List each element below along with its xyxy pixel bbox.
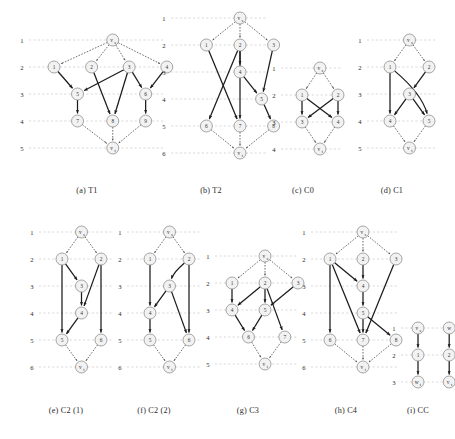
- graph-node-vs[interactable]: vs: [404, 34, 416, 46]
- graph-node-7[interactable]: 7: [234, 120, 246, 132]
- graph-node-vt[interactable]: vt: [314, 143, 326, 155]
- graph-node-2[interactable]: 2: [423, 61, 435, 73]
- node-label: v: [110, 145, 113, 151]
- graph-node-5[interactable]: 5: [357, 307, 369, 319]
- node-label: 6: [247, 334, 250, 340]
- graph-node-2[interactable]: 2: [259, 277, 271, 289]
- node-label: 2: [362, 256, 365, 262]
- edge-1-to-3: [66, 264, 78, 280]
- graph-node-6[interactable]: 6: [243, 331, 255, 343]
- graph-node-4[interactable]: 4: [332, 116, 344, 128]
- graph-node-6[interactable]: 6: [140, 88, 152, 100]
- node-label: 5: [428, 118, 431, 124]
- node-label: 6: [100, 337, 103, 343]
- graph-node-7[interactable]: 7: [279, 331, 291, 343]
- graph-node-vt[interactable]: vt: [443, 376, 455, 388]
- layer-label: 1: [302, 229, 305, 236]
- graph-node-vs[interactable]: vs: [76, 226, 88, 238]
- node-label: v: [317, 65, 320, 71]
- node-label-subscript: s: [420, 328, 422, 333]
- graph-node-7[interactable]: 7: [357, 334, 369, 346]
- graph-node-5[interactable]: 5: [72, 88, 84, 100]
- graph-node-6[interactable]: 6: [200, 120, 212, 132]
- graph-node-2[interactable]: 2: [86, 61, 98, 73]
- graph-node-3[interactable]: 3: [404, 88, 416, 100]
- layer-label: 2: [302, 256, 305, 263]
- graph-node-7[interactable]: 7: [72, 115, 84, 127]
- graph-node-2[interactable]: 2: [357, 253, 369, 265]
- graph-node-vt[interactable]: vt: [164, 361, 176, 373]
- graph-panel-cc: 123vsw12wtvt: [382, 318, 454, 388]
- graph-node-vs[interactable]: vs: [412, 322, 424, 334]
- node-label-subscript: s: [114, 40, 116, 45]
- graph-node-vt[interactable]: vt: [259, 358, 271, 370]
- graph-node-9[interactable]: 9: [140, 115, 152, 127]
- edge-6-to-vt: [252, 342, 261, 357]
- graph-node-1[interactable]: 1: [384, 61, 396, 73]
- node-label: v: [407, 37, 410, 43]
- graph-node-vt[interactable]: vt: [234, 147, 246, 159]
- node-label: 2: [100, 256, 103, 262]
- graph-node-6[interactable]: 6: [324, 334, 336, 346]
- graph-node-4[interactable]: 4: [357, 280, 369, 292]
- graph-node-5[interactable]: 5: [144, 334, 156, 346]
- edge-2-to-4: [238, 287, 260, 305]
- graph-node-2[interactable]: 2: [183, 253, 195, 265]
- graph-node-3[interactable]: 3: [123, 61, 135, 73]
- node-label: v: [167, 229, 170, 235]
- node-label: 5: [362, 310, 365, 316]
- graph-node-vt[interactable]: vt: [357, 361, 369, 373]
- graph-node-3[interactable]: 3: [296, 116, 308, 128]
- graph-node-4[interactable]: 4: [76, 307, 88, 319]
- graph-node-1[interactable]: 1: [412, 349, 424, 361]
- layer-label: 4: [118, 310, 122, 317]
- graph-node-vs[interactable]: vs: [357, 226, 369, 238]
- graph-node-5[interactable]: 5: [423, 115, 435, 127]
- graph-node-1[interactable]: 1: [56, 253, 68, 265]
- graph-node-1[interactable]: 1: [200, 39, 212, 51]
- graph-node-1[interactable]: 1: [144, 253, 156, 265]
- graph-node-4[interactable]: 4: [144, 307, 156, 319]
- graph-node-3[interactable]: 3: [390, 253, 402, 265]
- graph-node-1[interactable]: 1: [226, 277, 238, 289]
- graph-node-4[interactable]: 4: [384, 115, 396, 127]
- graph-node-8[interactable]: 8: [107, 115, 119, 127]
- graph-node-3[interactable]: 3: [268, 39, 280, 51]
- node-label: v: [79, 364, 82, 370]
- node-label: 8: [111, 118, 114, 124]
- node-label: v: [262, 361, 265, 367]
- layer-label: 2: [206, 280, 209, 287]
- graph-node-vt[interactable]: vt: [404, 142, 416, 154]
- edge-vs-to-1: [61, 43, 107, 64]
- graph-node-1[interactable]: 1: [324, 253, 336, 265]
- graph-node-vs[interactable]: vs: [259, 250, 271, 262]
- layer-label: 4: [358, 118, 362, 125]
- graph-node-1[interactable]: 1: [296, 89, 308, 101]
- graph-node-2[interactable]: 2: [443, 349, 455, 361]
- graph-node-2[interactable]: 2: [234, 39, 246, 51]
- graph-node-2[interactable]: 2: [332, 89, 344, 101]
- edge-vs-to-2: [323, 73, 333, 89]
- graph-node-4[interactable]: 4: [226, 304, 238, 316]
- graph-node-1[interactable]: 1: [48, 61, 60, 73]
- graph-node-6[interactable]: 6: [183, 334, 195, 346]
- graph-node-5[interactable]: 5: [259, 304, 271, 316]
- graph-node-vs[interactable]: vs: [164, 226, 176, 238]
- edge-vs-to-3: [270, 260, 292, 278]
- graph-node-4[interactable]: 4: [234, 66, 246, 78]
- graph-node-vs[interactable]: vs: [107, 34, 119, 46]
- graph-node-5[interactable]: 5: [56, 334, 68, 346]
- node-label: 5: [76, 91, 79, 97]
- layer-label: 1: [162, 15, 165, 22]
- graph-node-3[interactable]: 3: [76, 280, 88, 292]
- edge-3-to-5: [413, 99, 425, 115]
- layer-label: 1: [392, 325, 395, 332]
- graph-node-vs[interactable]: vs: [234, 12, 246, 24]
- graph-node-w[interactable]: w: [443, 322, 455, 334]
- edge-6-to-vt: [86, 345, 98, 361]
- graph-node-ws[interactable]: wt: [412, 376, 424, 388]
- graph-node-3[interactable]: 3: [164, 280, 176, 292]
- graph-node-vs[interactable]: vs: [314, 62, 326, 74]
- graph-node-vt[interactable]: vt: [107, 142, 119, 154]
- graph-node-vt[interactable]: vt: [76, 361, 88, 373]
